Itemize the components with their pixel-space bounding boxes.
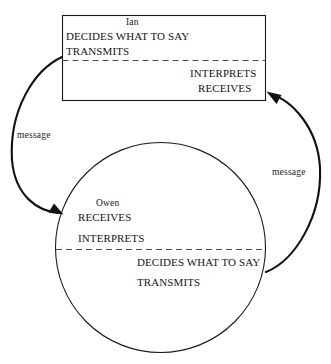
- message-arrow-right: [266, 94, 320, 272]
- diagram-canvas: [0, 0, 331, 364]
- owen-action-decides: DECIDES WHAT TO SAY: [137, 257, 260, 268]
- ian-action-transmits: TRANSMITS: [66, 46, 129, 57]
- message-label-left: message: [17, 131, 51, 141]
- ian-person-name: Ian: [126, 18, 139, 28]
- message-arrow-left-head: [49, 204, 64, 215]
- owen-circle: [56, 143, 266, 353]
- ian-action-decides: DECIDES WHAT TO SAY: [66, 31, 189, 42]
- owen-person-name: Owen: [96, 199, 120, 209]
- owen-action-interprets: INTERPRETS: [78, 233, 144, 244]
- message-label-right: message: [272, 168, 306, 178]
- ian-action-interprets: INTERPRETS: [190, 68, 256, 79]
- owen-action-transmits: TRANSMITS: [137, 277, 200, 288]
- message-arrow-right-head: [267, 92, 282, 105]
- communication-diagram: Ian DECIDES WHAT TO SAY TRANSMITS INTERP…: [0, 0, 331, 364]
- owen-action-receives: RECEIVES: [78, 212, 131, 223]
- ian-action-receives: RECEIVES: [198, 83, 251, 94]
